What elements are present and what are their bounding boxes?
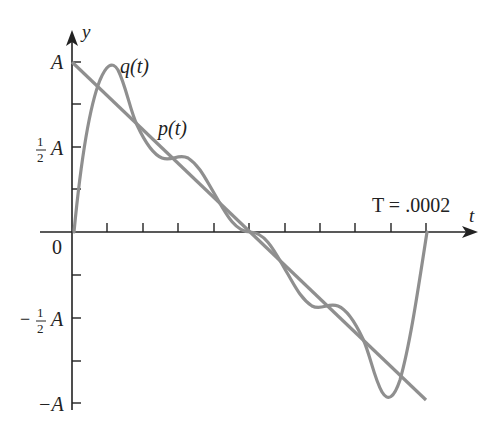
y-tick-label-zero: 0 [52, 236, 62, 258]
svg-text:1: 1 [37, 305, 44, 320]
y-tick-label-neg-A: −A [38, 393, 64, 415]
x-ticks [107, 223, 426, 232]
series-p-label: p(t) [156, 117, 187, 140]
svg-text:2: 2 [37, 150, 44, 165]
series-q-label: q(t) [120, 55, 149, 78]
svg-text:A: A [49, 308, 64, 330]
y-axis-label: y [80, 21, 91, 42]
y-tick-label-half-A: 1 2 A [36, 134, 64, 165]
svg-text:A: A [49, 137, 64, 159]
y-tick-label-A: A [49, 51, 64, 73]
svg-text:1: 1 [37, 134, 44, 149]
svg-text:2: 2 [37, 321, 44, 336]
period-annotation: T = .0002 [372, 194, 450, 216]
x-axis-label: t [469, 205, 475, 226]
y-tick-label-neg-half-A: − 1 2 A [20, 305, 64, 336]
svg-text:−: − [20, 309, 30, 329]
chart: y t T = .0002 A 1 2 A 0 − 1 2 A −A q(t) … [0, 0, 499, 421]
